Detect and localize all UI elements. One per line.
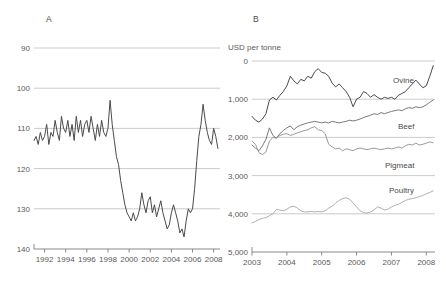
- series-label-poultry: Poultry: [389, 186, 414, 195]
- figure-container: A 14013012011010090199219941996199820002…: [0, 0, 446, 282]
- x-tick-label: 2008: [417, 258, 435, 267]
- x-tick-label: 2003: [243, 258, 261, 267]
- y-tick-label: 3,000: [222, 171, 248, 180]
- x-tick-label: 1998: [99, 255, 117, 264]
- y-tick-label: 140: [4, 245, 30, 254]
- x-tick-label: 2006: [184, 255, 202, 264]
- panel-b: B USD per tonne 5,0004,0003,0002,0001,00…: [223, 0, 446, 282]
- y-tick-label: 100: [4, 84, 30, 93]
- x-tick-label: 1992: [36, 255, 54, 264]
- series-label-ovine: Ovine: [393, 76, 414, 85]
- x-tick-label: 1994: [57, 255, 75, 264]
- y-tick-label: 5,000: [222, 248, 248, 257]
- series-line-ovine: [252, 66, 433, 123]
- y-tick-label: 130: [4, 204, 30, 213]
- x-tick-label: 2004: [162, 255, 180, 264]
- y-tick-label: 110: [4, 124, 30, 133]
- series-label-pigmeat: Pigmeat: [385, 161, 414, 170]
- x-tick-label: 1996: [78, 255, 96, 264]
- y-tick-label: 120: [4, 164, 30, 173]
- panel-a-plot: [0, 0, 223, 282]
- panel-b-plot: [223, 0, 446, 282]
- panel-a: A 14013012011010090199219941996199820002…: [0, 0, 223, 282]
- x-tick-label: 2008: [205, 255, 223, 264]
- y-tick-label: 2,000: [222, 133, 248, 142]
- y-tick-label: 4,000: [222, 209, 248, 218]
- x-tick-label: 2004: [278, 258, 296, 267]
- x-tick-label: 2007: [383, 258, 401, 267]
- y-tick-label: 1,000: [222, 95, 248, 104]
- x-tick-label: 2005: [313, 258, 331, 267]
- y-tick-label: 90: [4, 44, 30, 53]
- y-tick-label: 0: [222, 57, 248, 66]
- series-label-beef: Beef: [398, 122, 414, 131]
- x-tick-label: 2006: [348, 258, 366, 267]
- x-tick-label: 2002: [141, 255, 159, 264]
- series-line-poultry: [252, 191, 433, 223]
- x-tick-label: 2000: [120, 255, 138, 264]
